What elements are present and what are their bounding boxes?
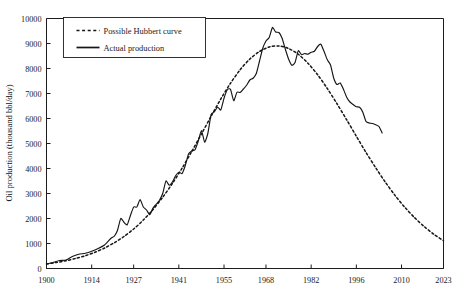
legend-label: Actual production: [104, 44, 166, 53]
x-tick-label: 1927: [125, 276, 141, 285]
y-tick-label: 3000: [25, 190, 41, 199]
x-tick-label: 2023: [435, 276, 451, 285]
series-layer: [47, 27, 444, 264]
y-tick-label: 4000: [25, 165, 41, 174]
y-axis-title: Oil production (thousand bbl/day): [4, 84, 14, 201]
x-tick-label: 1941: [171, 276, 187, 285]
legend-label: Possible Hubbert curve: [104, 27, 182, 36]
y-tick-label: 6000: [25, 115, 41, 124]
oil-production-chart: 0100020003000400050006000700080009000100…: [0, 0, 458, 298]
series-hubbert-curve: [47, 46, 444, 264]
x-tick-label: 1996: [348, 276, 364, 285]
x-tick-label: 2010: [393, 276, 409, 285]
y-tick-label: 1000: [25, 240, 41, 249]
x-tick-label: 1982: [303, 276, 319, 285]
y-tick-label: 10000: [21, 15, 41, 24]
chart-legend: Possible Hubbert curveActual production: [64, 18, 206, 58]
y-tick-label: 0: [37, 265, 41, 274]
series-actual-production: [47, 27, 383, 264]
chart-canvas: 0100020003000400050006000700080009000100…: [0, 0, 458, 298]
y-tick-label: 5000: [25, 140, 41, 149]
x-tick-label: 1968: [258, 276, 274, 285]
x-tick-label: 1900: [38, 276, 54, 285]
x-tick-label: 1955: [216, 276, 232, 285]
y-tick-label: 2000: [25, 215, 41, 224]
x-axis-ticks: 1900191419271941195519681982199620102023: [38, 265, 451, 285]
y-tick-label: 9000: [25, 40, 41, 49]
y-tick-label: 7000: [25, 90, 41, 99]
x-tick-label: 1914: [83, 276, 99, 285]
y-tick-label: 8000: [25, 65, 41, 74]
